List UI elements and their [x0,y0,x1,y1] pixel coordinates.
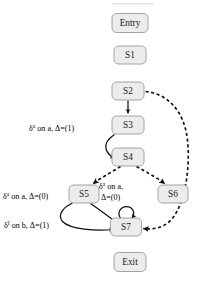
node-s6-label: S6 [168,189,178,199]
node-entry-label: Entry [120,18,141,28]
edge-label-s5: δa on a, Δ=(0) [3,191,49,201]
node-entry[interactable]: Entry [112,14,148,33]
edge-label-s7-onb: δf on b, Δ=(1) [4,220,49,230]
node-s4[interactable]: S4 [112,148,144,166]
node-s3[interactable]: S3 [112,116,144,134]
node-s7-label: S7 [121,222,131,232]
node-s2-label: S2 [123,86,133,96]
state-diagram: Entry S1 S2 S3 S4 S5 S6 S7 Exit [0,0,201,285]
edge-s7-self-loop [119,207,134,219]
edge-s4-to-s5 [94,167,121,184]
edge-label-s5-text: on a, Δ=(0) [9,192,48,201]
node-s3-label: S3 [123,120,133,130]
edge-label-s7-onb-text: on b, Δ=(1) [10,221,50,230]
node-s5-label: S5 [79,189,89,199]
node-s7[interactable]: S7 [111,218,142,236]
edge-s4-to-s6 [137,167,165,184]
node-s4-label: S4 [123,152,133,162]
node-exit-label: Exit [122,257,138,267]
edge-label-s7-loop-line2: Δ=(0) [101,193,121,202]
state-diagram-canvas: Entry S1 S2 S3 S4 S5 S6 S7 Exit [0,0,201,285]
node-s1[interactable]: S1 [114,46,146,64]
node-s5[interactable]: S5 [69,185,99,203]
edge-s5-to-s7-onb [60,203,113,230]
scan-artifact [112,3,154,4]
edge-s2-to-s7-dashed [144,92,189,229]
node-exit[interactable]: Exit [114,253,146,272]
edge-label-s3-text: on a, Δ=(1) [35,124,74,133]
node-s2[interactable]: S2 [112,82,144,100]
edge-label-s7-loop-text: on a, [105,182,123,191]
node-s6[interactable]: S6 [158,185,188,203]
edge-label-s3: δa on a, Δ=(1) [29,123,75,133]
edge-label-s7-loop: δa on a, [99,181,123,191]
node-s1-label: S1 [125,50,135,60]
